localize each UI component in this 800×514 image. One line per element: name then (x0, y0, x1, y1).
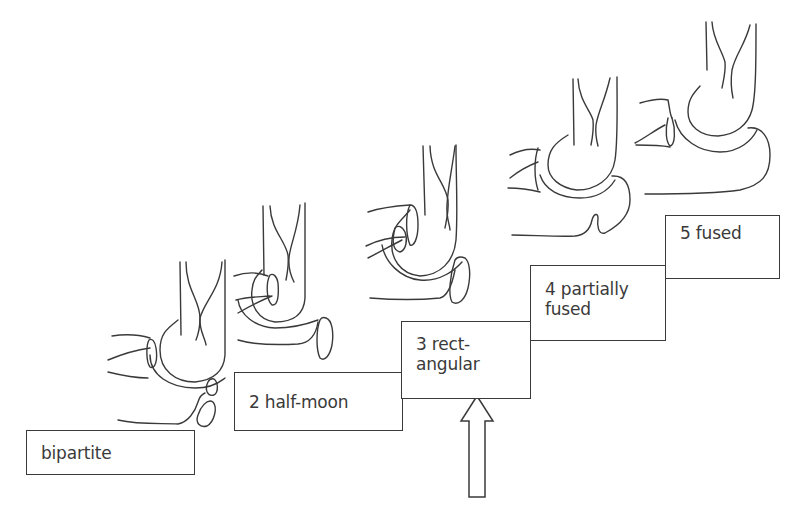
elbow-sketch-stage-2 (234, 203, 333, 359)
stage-label-partially-fused: 4 partially fused (530, 265, 666, 341)
elbow-sketch-stage-5 (635, 22, 770, 194)
stage-label-half-moon: 2 half-moon (234, 372, 403, 431)
up-arrow-icon (461, 396, 493, 497)
stage-label-text: 4 partially fused (545, 279, 629, 319)
stage-label-text: 3 rect- angular (416, 334, 480, 374)
elbow-sketch-stage-1 (108, 260, 225, 426)
stage-label-text: 2 half-moon (249, 392, 348, 412)
stage-label-text: bipartite (41, 443, 111, 463)
stage-label-bipartite: bipartite (26, 430, 195, 475)
elbow-sketch-stage-4 (508, 77, 630, 236)
stage-label-fused: 5 fused (665, 215, 780, 279)
stage-label-rectangular: 3 rect- angular (401, 321, 531, 399)
stage-label-text: 5 fused (680, 223, 742, 243)
elbow-sketch-stage-3 (366, 145, 470, 303)
